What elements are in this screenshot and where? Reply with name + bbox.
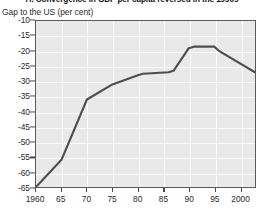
x-tick-mark [215, 188, 216, 192]
x-tick-mark [163, 188, 164, 192]
y-tick-label: -50 [18, 137, 30, 147]
x-tick-label: 75 [107, 194, 116, 204]
x-tick-label: 95 [210, 194, 219, 204]
y-tick-label: -30 [18, 76, 30, 86]
x-tick-label: 80 [133, 194, 142, 204]
series-line-gap-to-us [36, 21, 255, 187]
y-tick-label: -25 [18, 61, 30, 71]
x-tick-mark [35, 188, 36, 192]
x-tick-mark [138, 188, 139, 192]
x-tick-mark [61, 188, 62, 192]
x-tick-label: 2000 [231, 194, 250, 204]
y-tick-label: -20 [18, 46, 30, 56]
x-tick-mark [241, 188, 242, 192]
plot-area [35, 20, 256, 188]
x-tick-label: 70 [82, 194, 91, 204]
x-tick-label: 65 [56, 194, 65, 204]
y-tick-label: -60 [18, 168, 30, 178]
chart-subtitle: Gap to the US (per cent) [2, 7, 93, 17]
x-tick-label: 1960 [26, 194, 45, 204]
x-tick-mark [112, 188, 113, 192]
chart-title: A. Convergence in GDP per capita reverse… [0, 0, 264, 4]
x-tick-label: 90 [185, 194, 194, 204]
y-tick-label: -35 [18, 91, 30, 101]
y-tick-label: -40 [18, 107, 30, 117]
y-tick-label: -65 [18, 183, 30, 193]
y-tick-label: -45 [18, 122, 30, 132]
x-tick-label: 85 [159, 194, 168, 204]
y-tick-label: -55 [18, 152, 30, 162]
x-tick-mark [86, 188, 87, 192]
y-tick-label: -10 [18, 15, 30, 25]
x-tick-mark [189, 188, 190, 192]
y-tick-label: -15 [18, 30, 30, 40]
chart-figure: A. Convergence in GDP per capita reverse… [0, 0, 264, 218]
